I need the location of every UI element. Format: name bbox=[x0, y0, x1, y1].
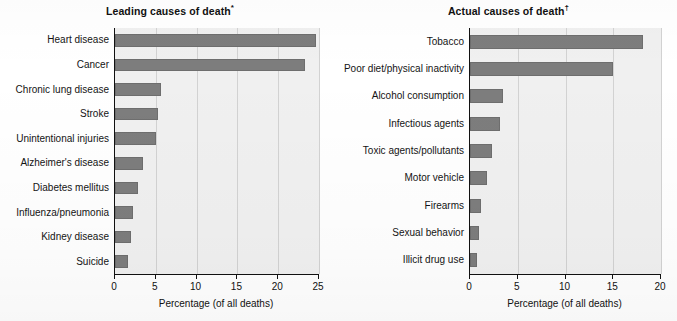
x-axis-tick-label: 5 bbox=[152, 281, 158, 292]
category-label: Stroke bbox=[0, 108, 109, 120]
category-label: Chronic lung disease bbox=[0, 84, 109, 96]
gridline bbox=[319, 28, 320, 274]
chart-title-left-text: Leading causes of death bbox=[106, 5, 231, 17]
bar bbox=[470, 253, 477, 267]
x-axis-tick-label: 20 bbox=[272, 281, 283, 292]
x-axis-tick bbox=[469, 275, 470, 279]
bar bbox=[470, 226, 479, 240]
category-label: Infectious agents bbox=[340, 118, 464, 130]
category-label: Heart disease bbox=[0, 34, 109, 46]
category-label: Alzheimer's disease bbox=[0, 157, 109, 169]
x-axis-tick-label: 25 bbox=[312, 281, 323, 292]
category-label: Tobacco bbox=[340, 36, 464, 48]
category-label: Suicide bbox=[0, 256, 109, 268]
x-axis-tick bbox=[196, 275, 197, 279]
category-label: Sexual behavior bbox=[340, 227, 464, 239]
x-axis-tick bbox=[114, 275, 115, 279]
x-axis-tick bbox=[318, 275, 319, 279]
x-axis-tick-label: 0 bbox=[466, 281, 472, 292]
x-axis-title: Percentage (of all deaths) bbox=[507, 298, 622, 309]
category-label: Poor diet/physical inactivity bbox=[340, 63, 464, 75]
x-axis-tick-label: 10 bbox=[559, 281, 570, 292]
bar bbox=[470, 117, 500, 131]
bar bbox=[115, 182, 138, 195]
chart-title-right-marker: † bbox=[565, 3, 570, 12]
x-axis-tick bbox=[565, 275, 566, 279]
x-axis-tick bbox=[660, 275, 661, 279]
chart-title-left: Leading causes of death* bbox=[0, 3, 340, 17]
category-label: Influenza/pneumonia bbox=[0, 207, 109, 219]
x-axis-tick-label: 15 bbox=[607, 281, 618, 292]
chart-title-left-marker: * bbox=[231, 3, 234, 12]
plot-area-right bbox=[469, 28, 661, 275]
bar bbox=[470, 35, 643, 49]
bar bbox=[470, 62, 613, 76]
category-label: Illicit drug use bbox=[340, 254, 464, 266]
x-axis-tick-label: 0 bbox=[111, 281, 117, 292]
category-label: Firearms bbox=[340, 200, 464, 212]
chart-title-right: Actual causes of death† bbox=[340, 3, 677, 17]
category-label: Alcohol consumption bbox=[340, 90, 464, 102]
category-label: Kidney disease bbox=[0, 231, 109, 243]
bar bbox=[115, 157, 143, 170]
bar bbox=[115, 132, 156, 145]
x-axis-tick bbox=[236, 275, 237, 279]
category-label: Toxic agents/pollutants bbox=[340, 145, 464, 157]
panel-leading-causes: Leading causes of death* Heart diseaseCa… bbox=[0, 0, 340, 321]
x-axis-tick bbox=[612, 275, 613, 279]
plot-area-left bbox=[114, 28, 319, 275]
bar bbox=[115, 34, 316, 47]
category-label: Unintentional injuries bbox=[0, 133, 109, 145]
x-axis-tick-label: 5 bbox=[514, 281, 520, 292]
bar bbox=[115, 59, 305, 72]
x-axis-tick bbox=[517, 275, 518, 279]
bar bbox=[115, 83, 161, 96]
bar bbox=[470, 144, 492, 158]
bar bbox=[115, 206, 133, 219]
x-axis-tick-label: 10 bbox=[190, 281, 201, 292]
gridline bbox=[661, 28, 662, 274]
chart-title-right-text: Actual causes of death bbox=[448, 5, 565, 17]
bar bbox=[470, 89, 503, 103]
gridline bbox=[613, 28, 614, 274]
x-axis-tick-label: 15 bbox=[231, 281, 242, 292]
x-axis-tick bbox=[155, 275, 156, 279]
bar bbox=[115, 108, 158, 121]
category-label: Motor vehicle bbox=[340, 172, 464, 184]
category-label: Diabetes mellitus bbox=[0, 182, 109, 194]
x-axis-title: Percentage (of all deaths) bbox=[159, 298, 274, 309]
x-axis-tick-label: 20 bbox=[654, 281, 665, 292]
x-axis-tick bbox=[277, 275, 278, 279]
category-label: Cancer bbox=[0, 59, 109, 71]
bar bbox=[115, 255, 128, 268]
two-panel-bar-figure: Leading causes of death* Heart diseaseCa… bbox=[0, 0, 677, 321]
panel-actual-causes: Actual causes of death† TobaccoPoor diet… bbox=[340, 0, 677, 321]
bar bbox=[470, 171, 487, 185]
bar bbox=[115, 231, 131, 244]
bar bbox=[470, 199, 481, 213]
